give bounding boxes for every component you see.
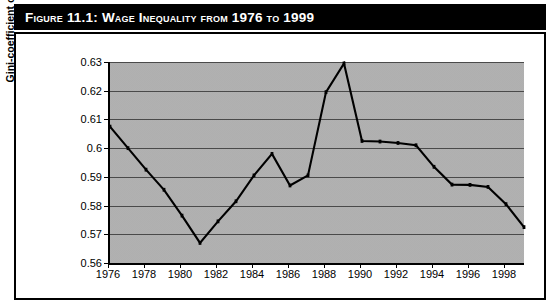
x-axis-tick-label: 1990 xyxy=(348,268,372,280)
x-axis-tick-label: 1984 xyxy=(240,268,264,280)
x-axis-tick-mark xyxy=(468,263,469,268)
data-point-marker xyxy=(271,152,274,156)
data-point-marker xyxy=(397,141,400,145)
x-axis-tick-label: 1988 xyxy=(312,268,336,280)
page-title: Figure 11.1: Wage Inequality from 1976 t… xyxy=(25,10,314,25)
data-point-marker xyxy=(343,62,346,66)
x-axis-tick-mark xyxy=(324,263,325,268)
data-point-marker xyxy=(235,199,238,203)
data-point-marker xyxy=(433,165,436,169)
x-axis-tick-mark xyxy=(252,263,253,268)
data-point-marker xyxy=(217,219,220,223)
x-axis-tick-mark xyxy=(432,263,433,268)
x-axis-tick-label: 1976 xyxy=(96,268,120,280)
x-axis-tick-labels: 1976197819801982198419861988199019921994… xyxy=(108,268,522,286)
y-axis-tick-labels: 0.630.620.610.60.590.580.570.56 xyxy=(60,62,102,263)
data-point-marker xyxy=(253,174,256,178)
x-axis-tick-label: 1992 xyxy=(384,268,408,280)
data-point-marker xyxy=(415,143,418,147)
data-point-marker xyxy=(361,139,364,143)
x-axis-tick-mark xyxy=(108,263,109,268)
x-axis-tick-label: 1994 xyxy=(420,268,444,280)
x-axis-tick-label: 1996 xyxy=(456,268,480,280)
x-axis-tick-label: 1982 xyxy=(204,268,228,280)
data-point-marker xyxy=(307,174,310,178)
y-axis-tick-label: 0.62 xyxy=(81,85,102,97)
data-point-marker xyxy=(145,168,148,172)
data-point-marker xyxy=(505,202,508,206)
figure-container: Figure 11.1: Wage Inequality from 1976 t… xyxy=(0,0,560,306)
y-axis-tick-label: 0.61 xyxy=(81,113,102,125)
x-axis-tick-label: 1986 xyxy=(276,268,300,280)
data-point-marker xyxy=(199,241,202,245)
data-point-marker xyxy=(451,183,454,187)
data-point-marker xyxy=(181,214,184,218)
data-point-marker xyxy=(523,225,526,229)
data-point-marker xyxy=(289,184,292,188)
x-axis-tick-mark xyxy=(144,263,145,268)
data-point-marker xyxy=(487,185,490,189)
x-axis-tick-label: 1980 xyxy=(168,268,192,280)
data-point-marker xyxy=(127,146,130,150)
y-axis-tick-label: 0.58 xyxy=(81,200,102,212)
figure-title-bar: Figure 11.1: Wage Inequality from 1976 t… xyxy=(14,4,546,30)
x-axis-tick-mark xyxy=(288,263,289,268)
x-axis-tick-mark xyxy=(180,263,181,268)
data-point-marker xyxy=(469,183,472,187)
x-axis-tick-mark xyxy=(396,263,397,268)
series-polyline xyxy=(110,63,524,242)
x-axis-tick-mark xyxy=(360,263,361,268)
x-axis-tick-mark xyxy=(504,263,505,268)
data-series-line xyxy=(110,62,524,263)
y-axis-tick-label: 0.6 xyxy=(87,142,102,154)
y-axis-tick-label: 0.63 xyxy=(81,56,102,68)
x-axis-tick-label: 1978 xyxy=(132,268,156,280)
y-axis-tick-label: 0.59 xyxy=(81,171,102,183)
x-axis-tick-mark xyxy=(216,263,217,268)
data-point-marker xyxy=(325,90,328,94)
data-point-marker xyxy=(163,188,166,192)
x-axis-tick-label: 1998 xyxy=(492,268,516,280)
data-point-marker xyxy=(379,140,382,144)
y-axis-tick-label: 0.57 xyxy=(81,228,102,240)
data-point-marker xyxy=(109,125,112,129)
plot-area xyxy=(108,62,524,265)
